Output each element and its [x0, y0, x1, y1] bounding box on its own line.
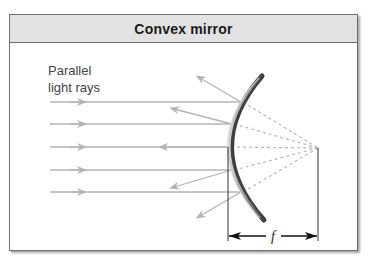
reflected-ray-5 — [200, 192, 241, 216]
reflected-ray-4 — [174, 170, 232, 187]
convex-mirror-diagram: f — [0, 0, 370, 264]
label-line-1: Parallel — [48, 62, 100, 79]
reflected-ray-1 — [200, 78, 241, 102]
focal-length-label: f — [271, 229, 277, 244]
reflected-ray-2 — [174, 109, 232, 124]
parallel-rays-label: Parallel light rays — [48, 62, 100, 96]
virtual-rays — [231, 102, 318, 192]
label-line-2: light rays — [48, 79, 100, 96]
